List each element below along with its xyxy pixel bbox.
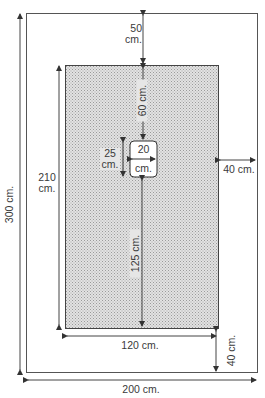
inner-height-label: 210 cm. (36, 172, 58, 194)
hole-height-label: 25 cm. (100, 148, 120, 170)
hole-width-unit: cm. (131, 163, 156, 174)
right-margin-label: 40 cm. (219, 164, 259, 175)
outer-width-label: 200 cm. (116, 384, 166, 395)
bottom-margin-label: 40 cm. (226, 331, 237, 371)
inner-height-unit: cm. (36, 183, 58, 194)
hole-bottom-label: 125 cm. (130, 230, 141, 278)
hole-width-num: 20 (131, 144, 156, 155)
hole-top-label: 60 cm. (137, 80, 148, 122)
hole-height-unit: cm. (100, 159, 120, 170)
top-margin-unit: cm. (118, 34, 142, 45)
inner-width-label: 120 cm. (115, 340, 165, 351)
outer-height-label: 300 cm. (4, 181, 15, 229)
top-margin-label: 50 cm. (118, 23, 142, 45)
